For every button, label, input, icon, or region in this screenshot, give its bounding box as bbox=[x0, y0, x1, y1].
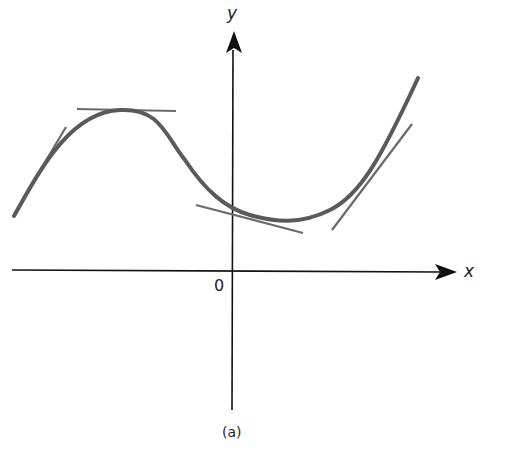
y-axis-arrow-icon bbox=[226, 31, 242, 53]
figure-caption: (a) bbox=[222, 424, 242, 440]
y-axis-label: y bbox=[227, 3, 237, 23]
x-axis bbox=[12, 270, 440, 272]
origin-label: 0 bbox=[214, 276, 224, 295]
function-curve bbox=[14, 78, 418, 221]
tangent-right bbox=[332, 124, 412, 230]
y-axis bbox=[232, 50, 233, 410]
x-axis-label: x bbox=[464, 261, 474, 281]
figure-canvas bbox=[0, 0, 526, 455]
